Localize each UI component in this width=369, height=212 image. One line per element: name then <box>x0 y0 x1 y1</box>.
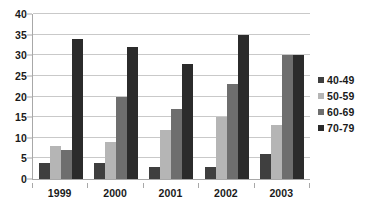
legend-item-50-59[interactable]: 50-59 <box>318 88 368 104</box>
bar-group-1999 <box>33 14 88 179</box>
x-tick-mark <box>254 183 255 188</box>
legend-label: 60-69 <box>327 106 354 118</box>
x-tick-mark <box>32 183 33 188</box>
bar-group-2003 <box>255 14 310 179</box>
bar-40-49-2002 <box>205 167 216 179</box>
bar-50-59-2003 <box>271 125 282 179</box>
plot-area <box>32 14 310 180</box>
y-tick-label: 35 <box>15 29 27 41</box>
legend-swatch-icon <box>318 109 324 115</box>
bar-70-79-2003 <box>293 55 304 179</box>
bar-60-69-2002 <box>227 84 238 179</box>
bar-70-79-1999 <box>72 39 83 179</box>
bar-50-59-2002 <box>216 117 227 179</box>
x-tick-label-2000: 2000 <box>103 187 127 199</box>
legend-item-60-69[interactable]: 60-69 <box>318 104 368 120</box>
chart-legend: 40-4950-5960-6970-79 <box>318 72 368 136</box>
bar-70-79-2001 <box>182 64 193 180</box>
x-tick-label-2003: 2003 <box>269 187 293 199</box>
bar-50-59-2000 <box>105 142 116 179</box>
y-tick-label: 20 <box>15 91 27 103</box>
legend-swatch-icon <box>318 77 324 83</box>
bar-40-49-2001 <box>149 167 160 179</box>
bar-50-59-2001 <box>160 130 171 180</box>
bar-60-69-2000 <box>116 97 127 180</box>
x-tick-label-1999: 1999 <box>48 187 72 199</box>
bar-70-79-2000 <box>127 47 138 179</box>
legend-swatch-icon <box>318 125 324 131</box>
x-tick-mark <box>198 183 199 188</box>
legend-label: 70-79 <box>327 122 354 134</box>
y-tick-label: 25 <box>15 70 27 82</box>
legend-label: 50-59 <box>327 90 354 102</box>
bar-group-2000 <box>88 14 143 179</box>
bar-60-69-2003 <box>282 55 293 179</box>
bar-50-59-1999 <box>50 146 61 179</box>
y-tick-label: 40 <box>15 8 27 20</box>
legend-label: 40-49 <box>327 74 354 86</box>
x-tick-mark <box>309 183 310 188</box>
x-tick-mark <box>143 183 144 188</box>
legend-item-40-49[interactable]: 40-49 <box>318 72 368 88</box>
bar-70-79-2002 <box>238 35 249 179</box>
legend-swatch-icon <box>318 93 324 99</box>
y-tick-label: 10 <box>15 132 27 144</box>
legend-item-70-79[interactable]: 70-79 <box>318 120 368 136</box>
x-tick-mark <box>87 183 88 188</box>
bar-40-49-1999 <box>39 163 50 180</box>
x-tick-label-2001: 2001 <box>159 187 183 199</box>
y-tick-label: 30 <box>15 49 27 61</box>
bar-40-49-2000 <box>94 163 105 180</box>
bar-chart-figure: 0510152025303540 19992000200120022003 40… <box>0 0 369 212</box>
y-axis: 0510152025303540 <box>0 14 27 180</box>
bar-60-69-2001 <box>171 109 182 179</box>
x-axis: 19992000200120022003 <box>32 183 310 205</box>
x-tick-label-2002: 2002 <box>214 187 238 199</box>
bar-60-69-1999 <box>61 150 72 179</box>
y-tick-label: 15 <box>15 111 27 123</box>
bar-group-2001 <box>144 14 199 179</box>
bar-40-49-2003 <box>260 154 271 179</box>
bar-group-2002 <box>199 14 254 179</box>
